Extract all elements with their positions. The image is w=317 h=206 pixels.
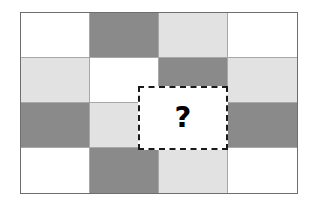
grid-cell-r4c3 — [159, 148, 228, 193]
missing-region-box: ? — [138, 86, 228, 150]
grid-cell-r4c4 — [228, 148, 297, 193]
grid-frame: ? — [20, 12, 298, 194]
pattern-puzzle-figure: ? — [0, 0, 317, 206]
grid-cell-r2c1 — [21, 58, 90, 103]
grid-cell-r2c4 — [228, 58, 297, 103]
grid-cell-r1c4 — [228, 13, 297, 58]
grid-cell-r3c4 — [228, 103, 297, 148]
grid-cell-r4c1 — [21, 148, 90, 193]
grid-cell-r1c1 — [21, 13, 90, 58]
grid-cell-r3c1 — [21, 103, 90, 148]
grid-cell-r4c2 — [90, 148, 159, 193]
grid-cell-r1c2 — [90, 13, 159, 58]
question-mark-icon: ? — [175, 103, 192, 132]
grid-cell-r1c3 — [159, 13, 228, 58]
